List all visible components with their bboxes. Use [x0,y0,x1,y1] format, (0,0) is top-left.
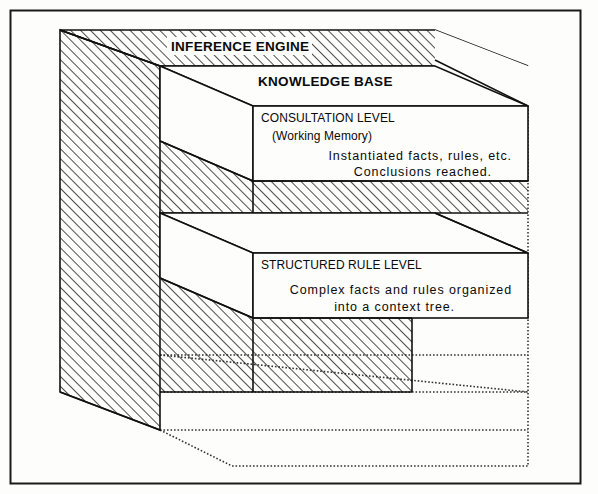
structured-rule-level-body-line-1: Complex facts and rules organized [290,283,512,297]
hidden-edge-bottom-diagonal [160,430,232,466]
consultation-level-title: CONSULTATION LEVEL [261,111,395,125]
knowledge-base-label: KNOWLEDGE BASE [258,74,393,89]
architecture-diagram: INFERENCE ENGINE KNOWLEDGE BASE CONSULTA… [0,0,598,494]
structured-rule-level-title: STRUCTURED RULE LEVEL [261,258,422,272]
inference-engine-label: INFERENCE ENGINE [171,39,309,54]
consultation-level-body-line-1: Instantiated facts, rules, etc. [328,149,512,163]
consultation-level-body-line-2: Conclusions reached. [354,165,492,179]
structured-rule-level-body-line-2: into a context tree. [334,300,455,314]
consultation-level-subtitle: (Working Memory) [272,129,372,143]
inference-engine-lower-band-2 [160,355,412,392]
inference-engine-left-wall [60,30,160,430]
figure-canvas: INFERENCE ENGINE KNOWLEDGE BASE CONSULTA… [0,0,598,494]
